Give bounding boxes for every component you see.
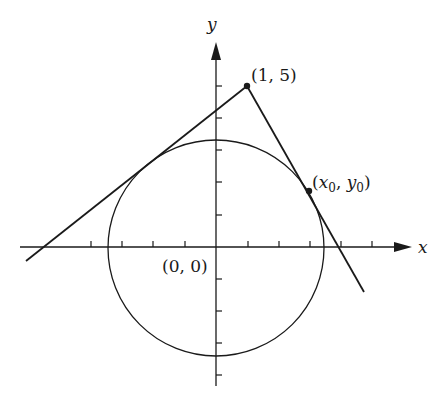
- y-axis: [211, 42, 222, 386]
- x-axis-ticks: [91, 241, 372, 247]
- tangent-x-sub: 0: [328, 181, 336, 195]
- x-axis-label: x: [418, 237, 428, 257]
- external-point-label: (1, 5): [251, 65, 297, 85]
- tangent-y-sub: 0: [356, 181, 364, 195]
- external-point-dot: [244, 83, 250, 89]
- y-axis-arrow-icon: [211, 42, 221, 60]
- tangent-y-base: y: [346, 172, 357, 192]
- tangent-x-base: x: [319, 172, 329, 192]
- tangent-point-label: (x0, y0): [312, 172, 371, 195]
- left-tangent-line: [26, 86, 247, 261]
- y-axis-label: y: [206, 14, 217, 34]
- origin-label: (0, 0): [162, 256, 208, 276]
- y-axis-ticks: [216, 86, 222, 375]
- x-axis-arrow-icon: [394, 242, 412, 252]
- diagram-canvas: y x (0, 0) (1, 5) (x0, y0): [0, 0, 437, 399]
